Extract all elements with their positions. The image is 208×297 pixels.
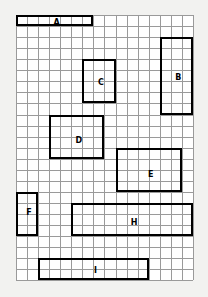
rectangle-label-c: C: [98, 79, 104, 87]
grid-canvas: ABCDEFHI: [16, 15, 193, 280]
grid-line-horizontal: [16, 115, 193, 116]
grid-line-horizontal: [16, 126, 193, 127]
rectangle-label-i: I: [94, 267, 97, 275]
diagram-page: ABCDEFHI: [0, 0, 208, 297]
grid-line-vertical: [193, 15, 194, 280]
rectangle-label-h: H: [131, 219, 138, 227]
rectangle-b[interactable]: B: [160, 37, 193, 114]
rectangle-label-e: E: [148, 171, 153, 179]
rectangle-h[interactable]: H: [71, 203, 193, 236]
grid-line-horizontal: [16, 137, 193, 138]
rectangle-a[interactable]: A: [16, 15, 93, 26]
grid-line-horizontal: [16, 247, 193, 248]
rectangle-i[interactable]: I: [38, 258, 149, 280]
rectangle-label-d: D: [75, 137, 82, 145]
rectangle-label-f: F: [26, 209, 31, 217]
rectangle-label-a: A: [54, 19, 60, 27]
rectangle-label-b: B: [175, 74, 181, 82]
rectangle-e[interactable]: E: [116, 148, 182, 192]
rectangle-d[interactable]: D: [49, 115, 104, 159]
grid-line-horizontal: [16, 192, 193, 193]
rectangle-f[interactable]: F: [16, 192, 38, 236]
rectangle-c[interactable]: C: [82, 59, 115, 103]
grid-line-horizontal: [16, 26, 193, 27]
